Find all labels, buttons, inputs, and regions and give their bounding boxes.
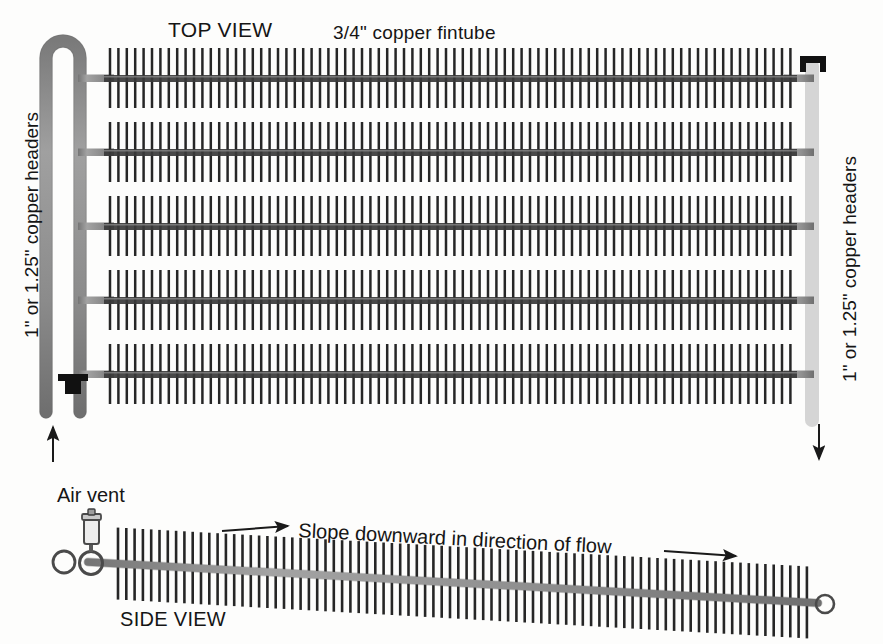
top-view-fintube-rows	[104, 48, 797, 404]
left-header-pipe	[46, 41, 80, 412]
slope-arrow-right-icon	[664, 551, 736, 556]
top-view-group	[46, 41, 826, 462]
air-vent-body-icon	[84, 519, 99, 544]
top-view-title: TOP VIEW	[168, 18, 272, 42]
fintube-row-1	[104, 48, 797, 108]
fintube-row-4	[104, 270, 797, 330]
fintube-row-3	[104, 196, 797, 256]
diagram-canvas: TOP VIEW 3/4" copper fintube 1" or 1.25"…	[0, 0, 883, 644]
side-view-title: SIDE VIEW	[120, 608, 226, 631]
air-vent-cap-icon	[88, 509, 95, 515]
fintube-row-5	[104, 344, 797, 404]
air-vent-callout-label: Air vent	[57, 484, 125, 507]
air-vent-side-port-icon	[53, 551, 75, 573]
fintube-callout-label: 3/4" copper fintube	[333, 22, 496, 44]
left-header-callout-label: 1" or 1.25" copper headers	[21, 75, 43, 375]
slope-arrow-left-icon	[222, 526, 288, 531]
left-header-fill	[46, 41, 80, 412]
right-header-callout-label: 1" or 1.25" copper headers	[839, 119, 861, 419]
flow-arrows	[53, 424, 819, 462]
fintube-row-2	[104, 122, 797, 182]
